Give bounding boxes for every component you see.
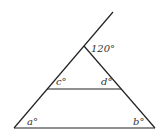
angle-label-a: a° — [27, 116, 38, 127]
angle-label-d: d° — [101, 76, 112, 87]
triangle-diagram: 120° c° d° a° b° — [0, 0, 165, 136]
angle-label-120: 120° — [91, 43, 115, 54]
left-side-extended-line — [14, 12, 113, 128]
angle-label-b: b° — [133, 116, 144, 127]
angle-label-c: c° — [56, 76, 67, 87]
